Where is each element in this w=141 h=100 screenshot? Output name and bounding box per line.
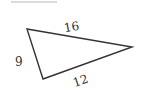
side-label-top: 16 bbox=[63, 19, 80, 35]
side-label-left: 9 bbox=[15, 55, 23, 69]
triangle-diagram: 16 9 12 bbox=[0, 0, 141, 100]
side-label-bottom: 12 bbox=[71, 72, 90, 90]
triangle-shape bbox=[27, 29, 132, 79]
